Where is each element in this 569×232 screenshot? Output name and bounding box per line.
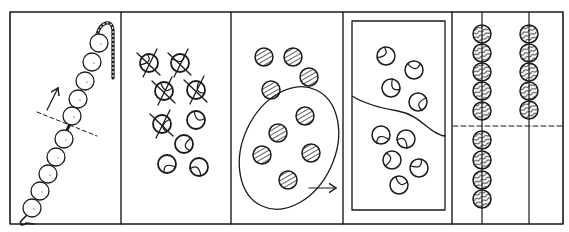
striped-bead xyxy=(520,44,538,62)
hatched-ball xyxy=(279,171,297,189)
hatched-ball xyxy=(262,81,280,99)
ball xyxy=(155,82,173,100)
panel-abacus-rods xyxy=(453,12,563,224)
striped-bead xyxy=(473,25,491,43)
striped-bead xyxy=(520,63,538,81)
bead xyxy=(31,182,49,200)
bead-dot xyxy=(93,62,94,63)
bead-dot xyxy=(73,116,74,117)
ball xyxy=(171,54,189,72)
bead-dot xyxy=(86,81,87,82)
ball xyxy=(382,79,400,97)
bead-dot xyxy=(49,174,50,175)
ball xyxy=(410,159,428,177)
hatched-ball xyxy=(269,124,287,142)
striped-bead xyxy=(473,102,491,120)
striped-bead xyxy=(520,25,538,43)
bead-dot xyxy=(79,99,80,100)
bead-dot xyxy=(65,139,66,140)
panel-tray-divided xyxy=(352,21,445,210)
bead xyxy=(63,107,81,125)
ball xyxy=(409,93,427,111)
ball xyxy=(372,126,390,144)
striped-bead xyxy=(473,151,491,169)
ball xyxy=(153,115,171,133)
bead xyxy=(39,165,57,183)
bead-dot xyxy=(41,191,42,192)
panel-bead-chain xyxy=(20,23,113,225)
striped-bead xyxy=(520,101,538,119)
bead xyxy=(47,148,65,166)
bead xyxy=(83,53,101,71)
wavy-divider xyxy=(352,96,445,136)
ball xyxy=(390,176,408,194)
striped-bead xyxy=(520,82,538,100)
bead xyxy=(90,34,108,52)
panel-circled-hatched-balls xyxy=(220,48,357,225)
hatched-ball xyxy=(284,48,302,66)
bead-dot xyxy=(100,43,101,44)
bead xyxy=(76,72,94,90)
striped-bead xyxy=(473,82,491,100)
panel-crossed-balls xyxy=(137,49,208,176)
bead xyxy=(55,130,73,148)
hatched-ball xyxy=(296,107,314,125)
striped-bead xyxy=(473,63,491,81)
arrow-up-icon xyxy=(47,88,58,110)
bead-dot xyxy=(33,208,34,209)
hatched-ball xyxy=(253,146,271,164)
striped-bead xyxy=(473,171,491,189)
ball xyxy=(158,155,176,173)
striped-bead xyxy=(473,44,491,62)
hatched-ball xyxy=(300,68,318,86)
hatched-ball xyxy=(302,144,320,162)
ball xyxy=(187,81,205,99)
bead xyxy=(23,199,41,217)
striped-bead xyxy=(473,131,491,149)
striped-bead xyxy=(473,190,491,208)
bead xyxy=(69,90,87,108)
grouping-ellipse xyxy=(220,71,357,226)
illustration-strip xyxy=(0,0,569,232)
hatched-ball xyxy=(255,48,273,66)
bead-dot xyxy=(57,157,58,158)
